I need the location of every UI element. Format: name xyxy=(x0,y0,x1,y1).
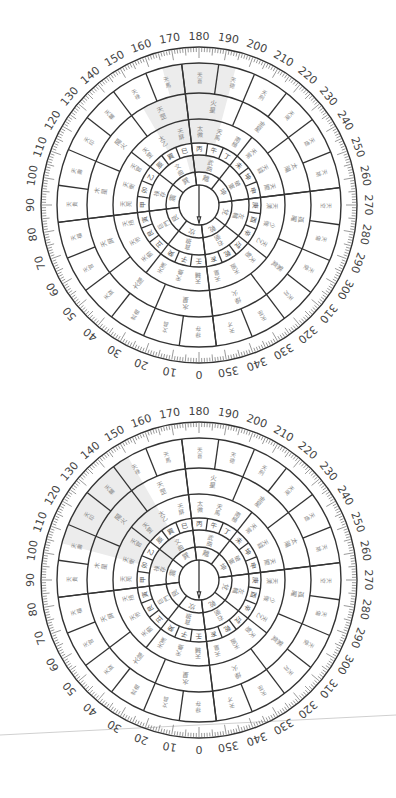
ring-glyph: 辰 xyxy=(154,160,165,171)
ring-glyph: 天罡 xyxy=(140,145,154,159)
ring-glyph: 天虛 xyxy=(302,512,316,524)
degree-label: 220 xyxy=(295,439,319,462)
ring-glyph: 天巫 xyxy=(256,684,267,697)
ring-glyph: 天皇 xyxy=(213,644,222,658)
ring-glyph: 水星 xyxy=(181,670,190,687)
ring-glyph: 天市 xyxy=(127,235,142,247)
ring-glyph: 天刑 xyxy=(257,464,269,478)
degree-label: 140 xyxy=(78,439,102,462)
ring-glyph: 寅 xyxy=(139,590,149,599)
ring-glyph: 艮 xyxy=(145,603,155,613)
ring-glyph: 天官 xyxy=(128,161,143,173)
ring-glyph: 天空 xyxy=(320,578,332,584)
ring-glyph: 天廚 xyxy=(139,624,153,638)
ring-glyph: 卯 xyxy=(139,560,150,569)
ring-glyph: 午 xyxy=(210,520,219,531)
degree-label: 30 xyxy=(105,342,124,360)
ring-glyph: 天哭 xyxy=(283,485,296,498)
ring-glyph: 天財 xyxy=(102,663,115,676)
ring-glyph: 天常 xyxy=(244,146,258,160)
ring-glyph: 南極 xyxy=(230,134,242,149)
ring-glyph: 天貴 xyxy=(66,576,79,582)
degree-label: 250 xyxy=(348,510,367,534)
guide-line xyxy=(0,715,396,735)
ring-glyph: 天市 xyxy=(127,610,142,622)
ring-glyph: 坤 xyxy=(217,561,228,572)
ring-glyph: 巨門 xyxy=(156,219,171,231)
degree-label: 170 xyxy=(158,30,181,46)
ring-glyph: 文昌 xyxy=(160,320,169,335)
ring-glyph: 坤 xyxy=(217,186,228,197)
ring-glyph: 庚 xyxy=(251,577,260,584)
ring-glyph: 破軍 xyxy=(228,179,243,191)
degree-label: 200 xyxy=(245,36,269,55)
degree-label: 60 xyxy=(44,655,62,674)
degree-label: 130 xyxy=(58,459,81,483)
degree-label: 310 xyxy=(317,676,340,700)
ring-glyph: 天輔 xyxy=(195,271,201,285)
degree-label: 350 xyxy=(217,738,240,754)
luopan-canvas: 坎艮震巽離坤兌乾貪狼巨門祿存文曲武曲破軍左輔右弼壬子癸丑艮寅甲卯乙辰巽巳丙午丁未… xyxy=(0,0,396,798)
ring-glyph: 天馬 xyxy=(214,501,224,516)
degree-label: 0 xyxy=(196,743,203,756)
ring-glyph: 太陰 xyxy=(130,275,145,292)
ring-glyph: 左輔 xyxy=(231,211,246,221)
ring-glyph: 壬 xyxy=(195,257,202,266)
ring-glyph: 坎 xyxy=(187,601,196,612)
ring-glyph: 孤曜 xyxy=(289,214,306,223)
degree-label: 180 xyxy=(189,30,210,43)
ring-glyph: 震 xyxy=(169,568,179,577)
ring-glyph: 丙 xyxy=(196,520,203,528)
degree-label: 260 xyxy=(357,164,373,187)
ring-glyph: 火星 xyxy=(208,474,217,490)
ring-glyph: 天屏 xyxy=(99,236,115,248)
ring-glyph: 天才 xyxy=(226,321,235,335)
ring-glyph: 燥火 xyxy=(230,664,242,681)
ring-glyph: 天壘 xyxy=(175,644,184,658)
ring-glyph: 天苑 xyxy=(118,576,132,582)
ring-glyph: 天巫 xyxy=(256,309,267,322)
ring-glyph: 太微 xyxy=(197,499,203,513)
degree-label: 350 xyxy=(217,363,240,379)
ring-glyph: 金星 xyxy=(253,493,268,510)
degree-label: 60 xyxy=(44,280,62,299)
ring-glyph: 天貴 xyxy=(66,201,79,207)
ring-glyph: 少微 xyxy=(262,220,277,230)
ring-glyph: 天輔 xyxy=(195,646,201,660)
ring-glyph: 天官 xyxy=(82,262,96,274)
ring-glyph: 文昌 xyxy=(160,695,169,710)
ring-glyph: 左輔 xyxy=(231,586,246,596)
ring-glyph: 艮 xyxy=(171,213,181,223)
ring-glyph: 禄存 xyxy=(195,326,201,339)
degree-label: 160 xyxy=(129,36,153,55)
ring-glyph: 乾 xyxy=(207,598,218,609)
ring-glyph: 午 xyxy=(210,145,219,156)
ring-glyph: 天漢 xyxy=(155,636,167,651)
ring-glyph: 兌 xyxy=(220,208,231,217)
ring-glyph: 天潢 xyxy=(265,203,279,209)
degree-label: 0 xyxy=(196,368,203,381)
ring-glyph: 辰 xyxy=(154,535,165,546)
degree-label: 100 xyxy=(24,164,40,187)
ring-glyph: 天馬 xyxy=(163,451,172,465)
ring-glyph: 子 xyxy=(180,629,189,639)
ring-glyph: 祿存 xyxy=(152,189,166,198)
ring-glyph: 天姚 xyxy=(315,169,329,178)
ring-glyph: 天空 xyxy=(320,203,332,209)
ring-glyph: 天使 xyxy=(301,638,315,650)
ring-glyph: 水星 xyxy=(181,295,190,312)
ring-glyph: 寅 xyxy=(139,215,149,224)
degree-label: 90 xyxy=(24,573,37,587)
ring-glyph: 天苑 xyxy=(118,201,132,207)
ring-glyph: 武曲 xyxy=(128,307,140,322)
degree-label: 50 xyxy=(60,304,79,323)
ring-glyph: 天才 xyxy=(226,696,235,710)
ring-glyph: 天虛 xyxy=(302,137,316,149)
degree-label: 110 xyxy=(30,135,49,159)
degree-label: 100 xyxy=(24,539,40,562)
ring-glyph: 天月 xyxy=(281,664,294,677)
needle-arrow-icon xyxy=(197,560,200,598)
ring-glyph: 庚 xyxy=(251,202,260,209)
ring-glyph: 天廄 xyxy=(229,261,241,276)
ring-glyph: 乙 xyxy=(146,547,156,557)
